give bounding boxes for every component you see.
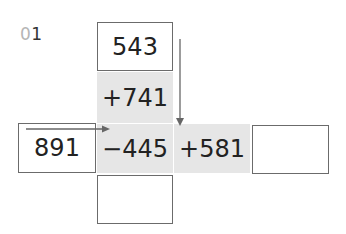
arrow-down-icon [176,39,184,126]
arrow-right-icon [26,126,110,133]
arrow-icons [0,0,346,234]
